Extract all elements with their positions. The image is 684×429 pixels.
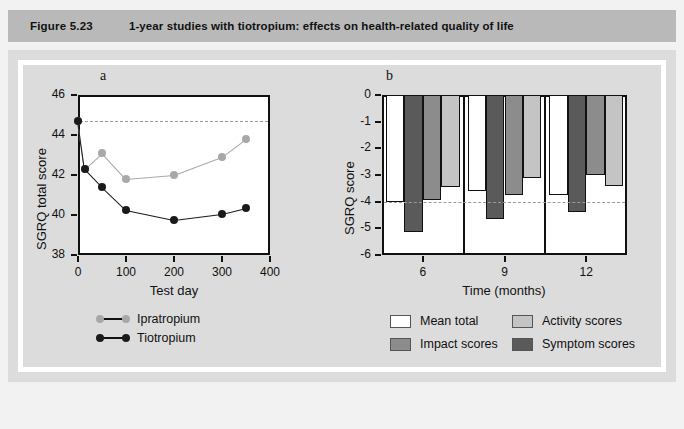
panel-a-x-tick-label: 300 xyxy=(202,265,242,279)
panel-b-reference-line xyxy=(384,202,625,203)
legend-label-symptom-scores: Symptom scores xyxy=(542,337,635,351)
panel-b-x-tick-mark xyxy=(504,256,506,262)
panel-b-legend: Mean total Activity scores Impact scores… xyxy=(390,314,640,358)
panel-a-y-tick-mark xyxy=(71,134,77,136)
panel-b-y-tick-label: 0 xyxy=(337,87,371,101)
panel-b-bar[interactable] xyxy=(586,95,604,175)
legend-label-activity-scores: Activity scores xyxy=(542,314,622,328)
panel-b-y-tick-mark xyxy=(375,227,381,229)
panel-b-group-separator xyxy=(544,95,546,255)
activity-scores-swatch-icon xyxy=(512,315,533,328)
panel-a-x-tick-mark xyxy=(125,256,127,262)
panel-b-x-tick-label: 12 xyxy=(566,265,606,279)
panel-a-x-axis-label: Test day xyxy=(114,283,234,298)
symptom-scores-swatch-icon xyxy=(512,338,533,351)
panel-b-y-tick-mark xyxy=(375,174,381,176)
panel-b-y-tick-label: -3 xyxy=(337,167,371,181)
panel-b-bar[interactable] xyxy=(486,95,504,219)
panel-a-x-tick-label: 100 xyxy=(106,265,146,279)
legend-item-activity-scores[interactable]: Activity scores xyxy=(512,314,622,328)
panel-b-y-tick-label: -1 xyxy=(337,114,371,128)
panel-b-y-tick-mark xyxy=(375,121,381,123)
panel-a-x-tick-mark xyxy=(221,256,223,262)
ipratropium-line-icon xyxy=(96,314,130,324)
panel-b-x-tick-label: 6 xyxy=(403,265,443,279)
panel-a-y-tick-mark xyxy=(71,214,77,216)
legend-label-ipratropium: Ipratropium xyxy=(137,312,200,326)
panel-b-y-tick-mark xyxy=(375,201,381,203)
panel-b-x-tick-mark xyxy=(585,256,587,262)
panel-a-letter: a xyxy=(100,68,106,84)
panel-b-bar[interactable] xyxy=(468,95,486,191)
figure-panels: a SGRQ total score Test day 3840424446 0… xyxy=(8,50,676,382)
panel-b-y-tick-mark xyxy=(375,147,381,149)
tiotropium-line-icon xyxy=(96,333,130,343)
legend-item-tiotropium[interactable]: Tiotropium xyxy=(96,331,196,345)
legend-item-impact-scores[interactable]: Impact scores xyxy=(390,337,498,351)
panel-b-bar[interactable] xyxy=(423,95,441,200)
mean-total-swatch-icon xyxy=(390,315,411,328)
panel-b-bar[interactable] xyxy=(404,95,422,232)
legend-label-mean-total: Mean total xyxy=(420,314,478,328)
panel-b-letter: b xyxy=(386,68,393,84)
panel-a-y-tick-label: 44 xyxy=(31,127,65,141)
panel-b-group-separator xyxy=(463,95,465,255)
panel-a-x-tick-mark xyxy=(269,256,271,262)
panel-b: b SGRQ score Time (months) 0-1-2-3-4-5-6… xyxy=(342,50,676,382)
panel-b-bar[interactable] xyxy=(568,95,586,212)
panel-a-y-tick-label: 38 xyxy=(31,247,65,261)
panel-a-x-tick-label: 400 xyxy=(250,265,290,279)
panel-b-bar[interactable] xyxy=(505,95,523,195)
panel-b-y-tick-label: -4 xyxy=(337,194,371,208)
panel-a: a SGRQ total score Test day 3840424446 0… xyxy=(8,50,342,382)
figure-title: 1-year studies with tiotropium: effects … xyxy=(129,20,514,32)
legend-label-tiotropium: Tiotropium xyxy=(137,331,196,345)
legend-item-mean-total[interactable]: Mean total xyxy=(390,314,478,328)
panel-a-y-tick-mark xyxy=(71,174,77,176)
panel-b-x-tick-mark xyxy=(422,256,424,262)
impact-scores-swatch-icon xyxy=(390,338,411,351)
panel-b-y-tick-mark xyxy=(375,94,381,96)
panel-b-bar[interactable] xyxy=(605,95,623,186)
figure-title-bar: Figure 5.23 1-year studies with tiotropi… xyxy=(8,10,676,42)
panel-a-y-axis-label: SGRQ total score xyxy=(34,148,49,250)
panel-b-y-tick-label: -5 xyxy=(337,220,371,234)
legend-item-ipratropium[interactable]: Ipratropium xyxy=(96,312,200,326)
panel-b-bar[interactable] xyxy=(386,95,404,202)
legend-label-impact-scores: Impact scores xyxy=(420,337,498,351)
panel-a-x-tick-label: 0 xyxy=(58,265,98,279)
panel-b-x-axis-label: Time (months) xyxy=(444,283,564,298)
panel-b-bar[interactable] xyxy=(549,95,567,195)
panel-a-x-tick-mark xyxy=(173,256,175,262)
panel-a-y-tick-label: 40 xyxy=(31,207,65,221)
figure-number: Figure 5.23 xyxy=(30,20,93,32)
panel-a-x-tick-label: 200 xyxy=(154,265,194,279)
figure-page: Figure 5.23 1-year studies with tiotropi… xyxy=(0,0,684,429)
panel-b-y-tick-mark xyxy=(375,254,381,256)
legend-item-symptom-scores[interactable]: Symptom scores xyxy=(512,337,635,351)
panel-a-y-tick-mark xyxy=(71,94,77,96)
panel-b-bar[interactable] xyxy=(441,95,459,187)
panel-b-y-tick-label: -6 xyxy=(337,247,371,261)
panel-a-y-tick-label: 42 xyxy=(31,167,65,181)
panel-a-x-tick-mark xyxy=(77,256,79,262)
panel-a-y-tick-label: 46 xyxy=(31,87,65,101)
panel-a-data-point[interactable] xyxy=(81,165,89,173)
panel-b-x-tick-label: 9 xyxy=(485,265,525,279)
panel-b-bar[interactable] xyxy=(523,95,541,178)
panel-a-reference-line xyxy=(80,121,268,122)
panel-b-y-tick-label: -2 xyxy=(337,140,371,154)
